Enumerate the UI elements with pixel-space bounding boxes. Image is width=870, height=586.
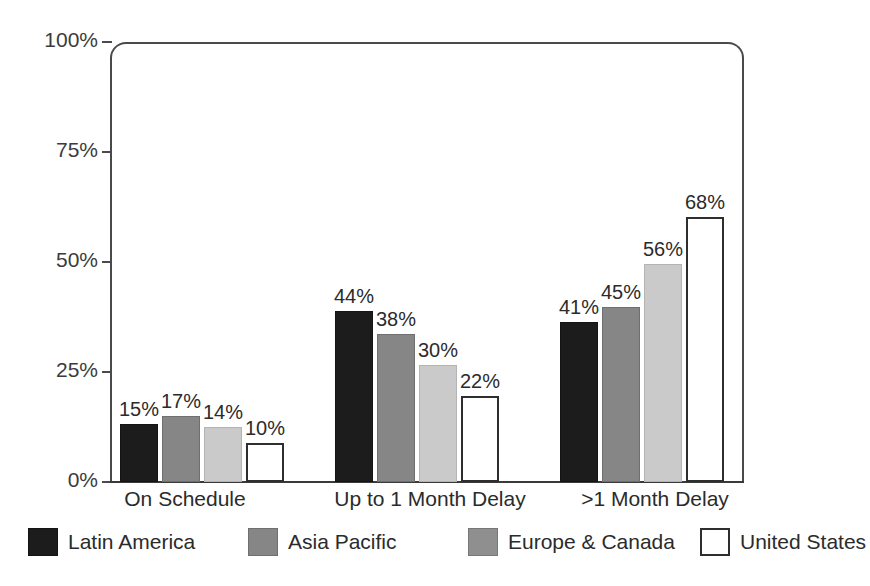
bar (246, 443, 284, 482)
category-label: >1 Month Delay (505, 487, 805, 511)
legend-item[interactable]: Europe & Canada (468, 528, 675, 556)
legend-label: Latin America (68, 530, 195, 554)
bar (461, 396, 499, 482)
legend-label: Asia Pacific (288, 530, 397, 554)
bar (602, 307, 640, 482)
bar-chart-figure: 100%75%50%25%0% 15%17%14%10%44%38%30%22%… (0, 0, 870, 586)
bar-value-label: 56% (633, 238, 693, 261)
bar (120, 424, 158, 482)
bar (162, 416, 200, 482)
legend-label: United States (740, 530, 866, 554)
bar-value-label: 10% (235, 417, 295, 440)
legend-item[interactable]: Latin America (28, 528, 195, 556)
bar-value-label: 44% (324, 285, 384, 308)
bar-value-label: 38% (366, 308, 426, 331)
bar (335, 311, 373, 482)
legend-item[interactable]: United States (700, 528, 866, 556)
legend-item[interactable]: Asia Pacific (248, 528, 397, 556)
legend-swatch-icon (248, 528, 278, 556)
bar-value-label: 68% (675, 191, 735, 214)
legend-swatch-icon (28, 528, 58, 556)
legend-label: Europe & Canada (508, 530, 675, 554)
bar (560, 322, 598, 482)
bar-value-label: 30% (408, 339, 468, 362)
bar-value-label: 22% (450, 370, 510, 393)
chart-legend: Latin AmericaAsia PacificEurope & Canada… (0, 528, 870, 568)
bar-value-label: 45% (591, 281, 651, 304)
legend-swatch-icon (468, 528, 498, 556)
legend-swatch-icon (700, 528, 730, 556)
